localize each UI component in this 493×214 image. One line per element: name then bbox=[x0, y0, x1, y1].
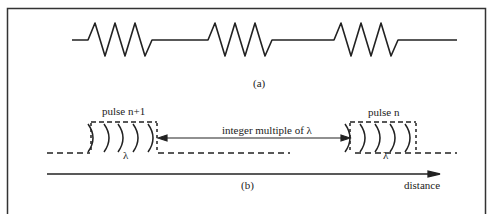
pulse-train-a bbox=[72, 23, 457, 56]
pulse-n-plus-1-label: pulse n+1 bbox=[102, 106, 145, 117]
wavelength-right: λ bbox=[383, 150, 388, 161]
distance-axis bbox=[47, 171, 440, 177]
pulse-n bbox=[345, 122, 416, 153]
pulse-n-label: pulse n bbox=[368, 107, 399, 118]
wavelength-left: λ bbox=[123, 150, 128, 161]
label-a: (a) bbox=[253, 78, 265, 89]
distance-label: distance bbox=[404, 180, 440, 191]
separation-label: integer multiple of λ bbox=[222, 125, 312, 136]
label-b: (b) bbox=[241, 180, 254, 191]
